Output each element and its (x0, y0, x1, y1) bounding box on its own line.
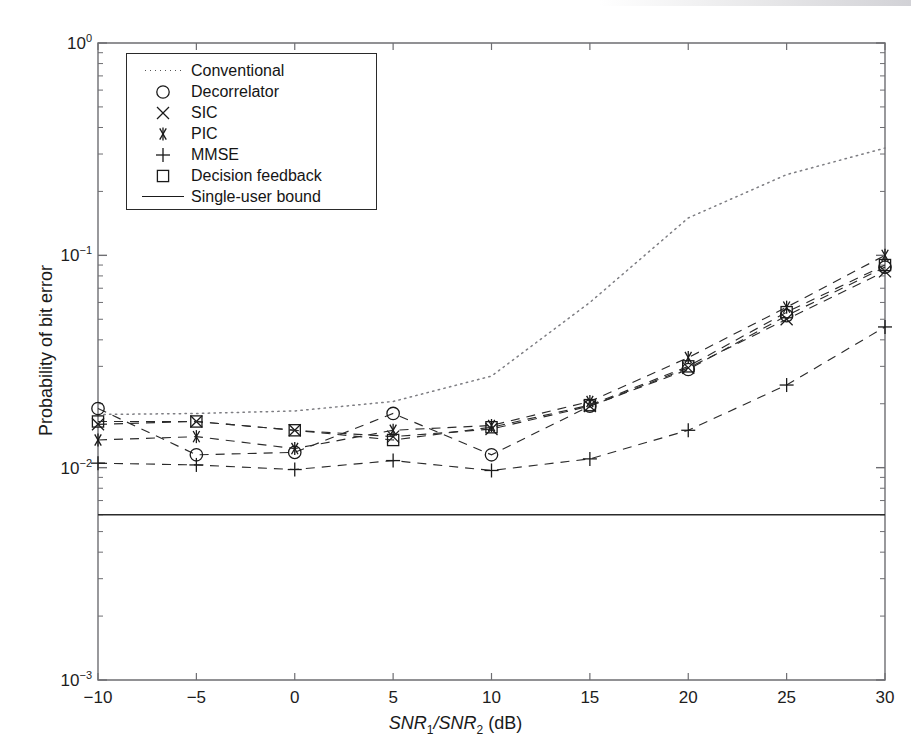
legend-entry-label: SIC (191, 104, 218, 122)
y-tick-exponent: −3 (79, 669, 92, 681)
legend-entry-sic[interactable]: SIC (127, 102, 376, 123)
legend-entry-label: Single-user bound (191, 188, 321, 206)
x-tick-label-25: 25 (765, 688, 809, 708)
y-tick-exponent: 0 (86, 32, 92, 44)
x-tick-label-30: 30 (863, 688, 907, 708)
solid-line-icon (135, 196, 191, 197)
circle-icon (135, 82, 191, 102)
x-tick-label-5: 5 (371, 688, 415, 708)
y-tick-mantissa: 10 (61, 458, 80, 477)
y-axis-label: Probability of bit error (36, 221, 57, 481)
y-axis-label-text: Probability of bit error (36, 265, 56, 436)
asterisk-icon (135, 124, 191, 144)
series-line (98, 265, 885, 440)
series-markers (91, 320, 892, 478)
x-tick-label-0: 0 (273, 688, 317, 708)
x-tick-label-neg5: −5 (174, 688, 218, 708)
figure-canvas: −10−505101520253010010−110−210−3 Probabi… (0, 0, 911, 756)
y-tick-label-1e-3: 10−3 (38, 669, 92, 691)
legend-entry-label: MMSE (191, 146, 239, 164)
legend-entry-pic[interactable]: PIC (127, 123, 376, 144)
legend-entry-mmse[interactable]: MMSE (127, 144, 376, 165)
x-axis-label-snr1: SNR (389, 713, 427, 733)
plus-glyph (153, 145, 173, 165)
legend-entry-label: PIC (191, 125, 218, 143)
x-cross-glyph (153, 103, 173, 123)
legend-entry-decision-feedback[interactable]: Decision feedback (127, 165, 376, 186)
x-cross-icon (135, 103, 191, 123)
series-sic (92, 265, 891, 442)
y-tick-exponent: −2 (79, 457, 92, 469)
square-glyph (153, 166, 173, 186)
x-tick-label-neg10: −10 (76, 688, 120, 708)
x-axis-label: SNR1/SNR2 (dB) (0, 713, 911, 737)
x-tick-label-15: 15 (568, 688, 612, 708)
x-tick-label-20: 20 (666, 688, 710, 708)
dotted-line-icon (135, 69, 191, 72)
series-line (98, 271, 885, 436)
series-decision-feedback (92, 259, 890, 445)
series-markers (95, 249, 889, 455)
y-tick-label-1e0: 100 (38, 32, 92, 54)
y-tick-mantissa: 10 (67, 34, 86, 53)
legend-entry-decorrelator[interactable]: Decorrelator (127, 81, 376, 102)
legend-entry-label: Decision feedback (191, 167, 322, 185)
x-tick-label-10: 10 (470, 688, 514, 708)
x-axis-label-unit: (dB) (483, 713, 522, 733)
square-icon (135, 166, 191, 186)
plus-icon (135, 145, 191, 165)
legend-entry-conventional[interactable]: Conventional (127, 60, 376, 81)
dotted-line-swatch (143, 69, 183, 72)
solid-line-swatch (142, 196, 184, 197)
x-axis-label-snr2: SNR (439, 713, 477, 733)
legend-box: ConventionalDecorrelatorSICPICMMSEDecisi… (126, 53, 377, 210)
series-markers (92, 259, 890, 445)
circle-glyph (153, 82, 173, 102)
y-tick-exponent: −1 (79, 244, 92, 256)
asterisk-glyph (153, 124, 173, 144)
series-mmse (91, 320, 892, 478)
y-tick-mantissa: 10 (61, 246, 80, 265)
series-pic (95, 249, 889, 455)
series-markers (92, 265, 891, 442)
legend-entry-single-user-bound[interactable]: Single-user bound (127, 186, 376, 207)
legend-entry-label: Conventional (191, 62, 284, 80)
legend-entry-label: Decorrelator (191, 83, 279, 101)
y-tick-mantissa: 10 (61, 671, 80, 690)
